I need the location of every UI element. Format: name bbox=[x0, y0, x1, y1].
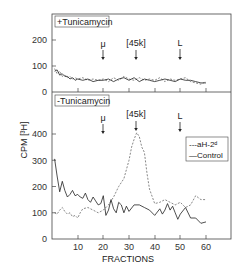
svg-text:50: 50 bbox=[175, 242, 185, 252]
y-axis-label: CPM [³H] bbox=[19, 122, 29, 159]
lower-series-dashed bbox=[55, 133, 206, 218]
svg-text:60: 60 bbox=[201, 242, 211, 252]
upper-x-ticks bbox=[78, 88, 206, 92]
legend-solid: —Control bbox=[189, 151, 223, 160]
down-arrow-icon bbox=[134, 57, 138, 60]
down-arrow-icon bbox=[101, 57, 105, 60]
lower-series-solid bbox=[55, 159, 206, 223]
lower-panel-label: -Tunicamycin bbox=[57, 96, 110, 106]
marker-mu-lower: μ bbox=[100, 113, 105, 123]
svg-text:100: 100 bbox=[32, 208, 47, 218]
x-axis-label: FRACTIONS bbox=[102, 254, 154, 264]
down-arrow-icon bbox=[178, 129, 182, 132]
marker-mu: μ bbox=[100, 39, 105, 49]
svg-text:30: 30 bbox=[124, 242, 134, 252]
svg-text:0: 0 bbox=[42, 87, 47, 97]
down-arrow-icon bbox=[178, 57, 182, 60]
marker-45k-lower: [45k] bbox=[126, 109, 146, 119]
marker-arrows bbox=[101, 49, 182, 134]
down-arrow-icon bbox=[101, 131, 105, 134]
svg-text:300: 300 bbox=[32, 156, 47, 166]
lower-markers: μ [45k] L bbox=[100, 109, 182, 123]
upper-markers: μ [45k] L bbox=[100, 38, 182, 49]
svg-text:200: 200 bbox=[32, 35, 47, 45]
down-arrow-icon bbox=[134, 128, 138, 131]
chart-figure: +Tunicamycin -Tunicamycin CPM [³H] FRACT… bbox=[0, 0, 244, 275]
marker-L: L bbox=[177, 38, 182, 48]
upper-panel-label: +Tunicamycin bbox=[57, 17, 112, 27]
svg-text:20: 20 bbox=[98, 242, 108, 252]
svg-text:200: 200 bbox=[32, 182, 47, 192]
svg-text:10: 10 bbox=[73, 242, 83, 252]
legend-dashed: ---aH-2ᵈ bbox=[189, 140, 217, 149]
svg-text:100: 100 bbox=[32, 61, 47, 71]
legend: ---aH-2ᵈ —Control bbox=[186, 137, 228, 161]
upper-series-dashed bbox=[55, 69, 206, 85]
marker-45k: [45k] bbox=[126, 38, 146, 48]
upper-series-solid bbox=[55, 70, 206, 83]
svg-text:40: 40 bbox=[150, 242, 160, 252]
svg-text:400: 400 bbox=[32, 129, 47, 139]
marker-L-lower: L bbox=[177, 111, 182, 121]
svg-text:0: 0 bbox=[42, 234, 47, 244]
lower-x-ticks: 10 20 30 40 50 60 bbox=[73, 235, 211, 252]
